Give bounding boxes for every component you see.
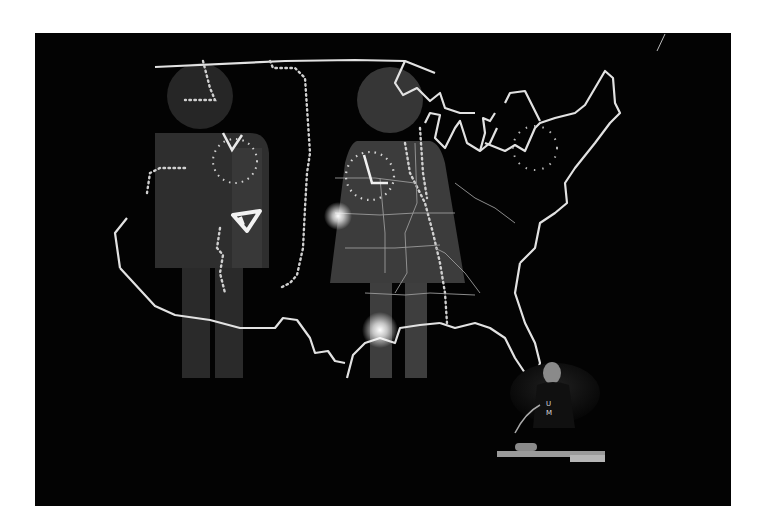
photo-scene: U M: [35, 33, 731, 506]
photograph: U M: [35, 33, 731, 506]
light-streak: [657, 34, 665, 51]
svg-text:M: M: [546, 409, 552, 417]
light-glow-bottom: [362, 312, 398, 348]
light-glow-left: [324, 202, 352, 230]
performer: U M: [497, 362, 605, 462]
shirt-letters: U: [546, 400, 551, 408]
